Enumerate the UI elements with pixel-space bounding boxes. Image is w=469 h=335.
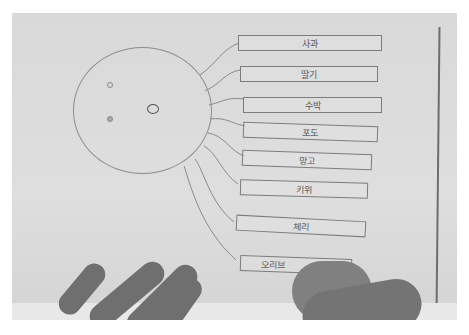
paper-photo: 사과 딸기 수박 포도 망고 키위 체리 오리브: [12, 13, 457, 320]
label-box-1: 사과: [238, 35, 382, 51]
label-text: 체리: [293, 219, 310, 233]
label-text: 딸기: [301, 68, 317, 81]
label-box-2: 딸기: [240, 66, 378, 82]
label-text: 포도: [302, 125, 318, 139]
label-text: 수박: [305, 99, 321, 112]
eye-dot: [107, 82, 113, 88]
label-text: 사과: [302, 37, 318, 50]
circle-head: [73, 47, 212, 174]
label-text: 망고: [299, 153, 315, 167]
label-box-3: 수박: [243, 97, 382, 113]
label-text: 키위: [296, 182, 312, 195]
eye-dot: [107, 116, 113, 122]
label-box-6: 키위: [240, 179, 368, 198]
mouth-shape: [147, 104, 159, 114]
label-text: 오리브: [261, 257, 285, 271]
